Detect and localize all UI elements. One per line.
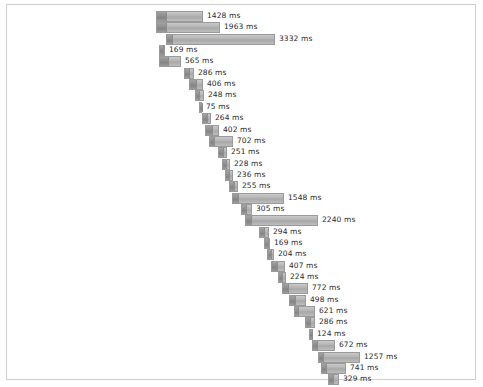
waterfall-bar-head-segment — [242, 205, 247, 214]
waterfall-bar[interactable] — [156, 11, 203, 22]
waterfall-bar-head-segment — [272, 262, 278, 271]
waterfall-bar-label: 169 ms — [169, 44, 198, 55]
waterfall-bar[interactable] — [159, 45, 165, 56]
waterfall-bar-label: 75 ms — [206, 101, 230, 112]
waterfall-bar[interactable] — [218, 147, 227, 158]
waterfall-bar[interactable] — [222, 159, 230, 170]
waterfall-bar-head-segment — [313, 341, 318, 350]
waterfall-bar-head-segment — [167, 35, 173, 44]
waterfall-bar-label: 3332 ms — [279, 33, 312, 44]
waterfall-bar-label: 251 ms — [231, 146, 260, 157]
waterfall-bar[interactable] — [282, 283, 308, 294]
waterfall-bar-label: 204 ms — [278, 248, 307, 259]
waterfall-plot-area: 1428 ms1963 ms3332 ms169 ms565 ms286 ms4… — [7, 5, 475, 379]
waterfall-bar[interactable] — [184, 68, 194, 79]
waterfall-bar-head-segment — [295, 307, 299, 316]
waterfall-bar-label: 402 ms — [223, 124, 252, 135]
waterfall-bar[interactable] — [156, 22, 220, 33]
waterfall-bar[interactable] — [259, 227, 269, 238]
waterfall-bar[interactable] — [321, 363, 346, 374]
waterfall-bar-label: 286 ms — [319, 316, 348, 327]
waterfall-bar-head-segment — [279, 273, 283, 282]
waterfall-bar-head-segment — [157, 12, 167, 21]
waterfall-bar[interactable] — [267, 249, 274, 260]
waterfall-bar-label: 224 ms — [290, 271, 319, 282]
waterfall-bar[interactable] — [271, 261, 285, 272]
waterfall-bar[interactable] — [289, 295, 306, 306]
waterfall-bar-label: 702 ms — [237, 135, 266, 146]
waterfall-bar-label: 294 ms — [273, 226, 302, 237]
waterfall-bar-label: 672 ms — [339, 339, 368, 350]
waterfall-bar[interactable] — [264, 238, 270, 249]
waterfall-bar-label: 228 ms — [234, 158, 263, 169]
waterfall-bar[interactable] — [229, 181, 238, 192]
waterfall-bar-head-segment — [196, 91, 200, 100]
waterfall-bar-head-segment — [322, 364, 327, 373]
waterfall-bar-head-segment — [185, 69, 190, 78]
waterfall-bar[interactable] — [312, 340, 335, 351]
waterfall-bar-head-segment — [268, 250, 272, 259]
waterfall-bar-head-segment — [219, 148, 224, 157]
waterfall-bar-label: 1428 ms — [207, 10, 240, 21]
waterfall-bar-head-segment — [160, 46, 164, 55]
waterfall-bar[interactable] — [278, 272, 286, 283]
waterfall-bar-label: 498 ms — [310, 294, 339, 305]
waterfall-bar[interactable] — [189, 79, 203, 90]
waterfall-bar-label: 255 ms — [242, 180, 271, 191]
waterfall-bar-label: 741 ms — [350, 362, 379, 373]
waterfall-bar-head-segment — [260, 228, 265, 237]
waterfall-bar-head-segment — [190, 80, 197, 89]
waterfall-bar-head-segment — [233, 194, 239, 203]
waterfall-bar[interactable] — [199, 102, 202, 113]
waterfall-bar-head-segment — [223, 160, 227, 169]
waterfall-bar-head-segment — [246, 216, 252, 225]
waterfall-bar[interactable] — [232, 193, 284, 204]
waterfall-bar-head-segment — [319, 353, 324, 362]
waterfall-bar[interactable] — [159, 56, 181, 67]
waterfall-bar[interactable] — [305, 317, 315, 328]
waterfall-bar-head-segment — [230, 182, 235, 191]
waterfall-bar-label: 248 ms — [208, 89, 237, 100]
waterfall-bar-label: 236 ms — [237, 169, 266, 180]
waterfall-bar-label: 407 ms — [289, 260, 318, 271]
waterfall-bar-label: 305 ms — [256, 203, 285, 214]
waterfall-bar[interactable] — [245, 215, 318, 226]
chart-frame: 1428 ms1963 ms3332 ms169 ms565 ms286 ms4… — [6, 4, 476, 380]
waterfall-bar[interactable] — [209, 136, 233, 147]
waterfall-bar-label: 2240 ms — [322, 214, 355, 225]
waterfall-bar-head-segment — [206, 126, 213, 135]
waterfall-bar-label: 286 ms — [198, 67, 227, 78]
waterfall-bar[interactable] — [328, 374, 339, 385]
waterfall-bar[interactable] — [225, 170, 233, 181]
waterfall-bar-label: 772 ms — [312, 282, 341, 293]
waterfall-bar-head-segment — [203, 114, 208, 123]
waterfall-bar-head-segment — [160, 57, 169, 66]
waterfall-bar[interactable] — [202, 113, 211, 124]
waterfall-bar[interactable] — [309, 329, 313, 340]
waterfall-bar-head-segment — [310, 330, 313, 339]
waterfall-bar-head-segment — [226, 171, 230, 180]
waterfall-bar-label: 621 ms — [319, 305, 348, 316]
waterfall-bar-label: 169 ms — [274, 237, 303, 248]
waterfall-bar[interactable] — [318, 352, 360, 363]
waterfall-bar[interactable] — [294, 306, 315, 317]
waterfall-bar-head-segment — [200, 103, 203, 112]
waterfall-bar-head-segment — [329, 375, 334, 384]
waterfall-bar[interactable] — [205, 125, 219, 136]
waterfall-bar-label: 1257 ms — [364, 351, 397, 362]
waterfall-bar-label: 329 ms — [343, 373, 372, 384]
waterfall-bar-head-segment — [306, 318, 311, 327]
waterfall-bar-label: 1963 ms — [224, 21, 257, 32]
waterfall-bar-label: 264 ms — [215, 112, 244, 123]
waterfall-bar-label: 406 ms — [207, 78, 236, 89]
waterfall-bar-head-segment — [290, 296, 296, 305]
waterfall-bar[interactable] — [241, 204, 252, 215]
waterfall-bar-label: 1548 ms — [288, 192, 321, 203]
waterfall-bar[interactable] — [195, 90, 204, 101]
waterfall-bar-label: 565 ms — [185, 55, 214, 66]
waterfall-bar-head-segment — [283, 284, 289, 293]
waterfall-bar-label: 124 ms — [317, 328, 346, 339]
waterfall-bar[interactable] — [166, 34, 275, 45]
waterfall-bar-head-segment — [265, 239, 269, 248]
waterfall-bar-head-segment — [157, 23, 167, 32]
